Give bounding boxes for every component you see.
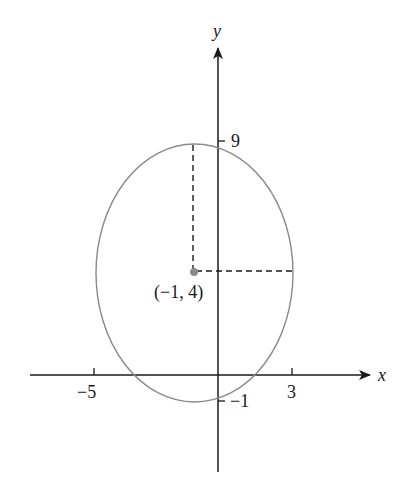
y-axis-label: y xyxy=(211,21,221,41)
center-label: (−1, 4) xyxy=(154,282,203,303)
tick-label-neg5: −5 xyxy=(77,382,96,402)
x-axis-label: x xyxy=(377,365,386,385)
center-point xyxy=(190,268,198,276)
tick-label-9: 9 xyxy=(231,131,240,151)
tick-label-3: 3 xyxy=(287,382,296,402)
ellipse-diagram: y x 9 −1 −5 3 (−1, 4) xyxy=(0,0,412,491)
tick-label-neg1: −1 xyxy=(230,391,249,411)
